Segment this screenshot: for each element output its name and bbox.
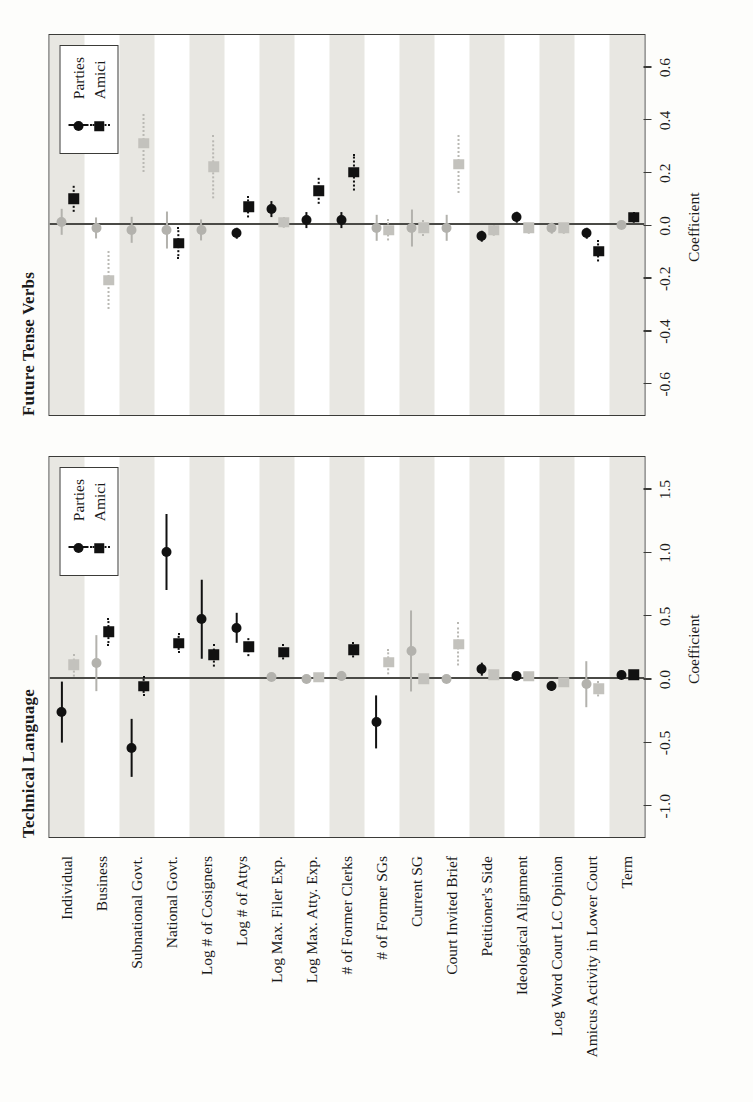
zero-reference-line (49, 677, 644, 679)
point-estimate-marker (266, 672, 276, 682)
category-label: Current SG (408, 856, 424, 927)
point-estimate-marker (511, 671, 521, 681)
point-estimate-marker (593, 684, 604, 695)
x-axis-tick (643, 119, 651, 120)
category-label: Court Invited Brief (443, 856, 459, 975)
legend: PartiesAmici (59, 467, 118, 576)
point-estimate-marker (488, 670, 499, 681)
point-estimate-marker (301, 215, 311, 225)
row-band (539, 35, 574, 415)
row-band (539, 457, 574, 837)
point-estimate-marker (476, 664, 486, 674)
x-axis-tick (643, 225, 651, 226)
alternating-row-bands (49, 457, 644, 837)
category-label: Term (618, 856, 634, 888)
legend-marker (93, 543, 104, 554)
point-estimate-marker (523, 222, 534, 233)
point-estimate-marker (278, 647, 289, 658)
row-band (119, 35, 154, 415)
x-axis-tick-label: -0.2 (655, 267, 673, 292)
point-estimate-marker (418, 222, 429, 233)
category-label: # of Former Clerks (338, 856, 354, 974)
row-band (399, 35, 434, 415)
point-estimate-marker (511, 212, 521, 222)
category-label: Petitioner's Side (478, 856, 494, 957)
point-estimate-marker (348, 167, 359, 178)
legend: PartiesAmici (59, 45, 118, 154)
point-estimate-marker (56, 217, 66, 227)
point-estimate-marker (383, 657, 394, 668)
point-estimate-marker (91, 658, 101, 668)
point-estimate-marker (231, 623, 241, 633)
row-band (329, 35, 364, 415)
x-axis-tick (643, 330, 651, 331)
point-estimate-marker (593, 246, 604, 257)
point-estimate-marker (91, 223, 101, 233)
point-estimate-marker (266, 204, 276, 214)
x-axis-tick (643, 742, 651, 743)
point-estimate-marker (628, 212, 639, 223)
category-label: Individual (58, 856, 74, 920)
legend-entry: Parties (67, 479, 88, 564)
point-estimate-marker (243, 201, 254, 212)
category-label: Amicus Activity in Lower Court (583, 856, 599, 1057)
x-axis-tick (643, 172, 651, 173)
row-band (189, 457, 224, 837)
x-axis-label-future-tense-verbs: Coefficient (684, 193, 702, 262)
point-estimate-marker (278, 217, 289, 228)
point-estimate-marker (453, 159, 464, 170)
point-estimate-marker (441, 674, 451, 684)
legend-marker (93, 121, 104, 132)
point-estimate-marker (173, 238, 184, 249)
x-axis-tick (643, 552, 651, 553)
x-axis-tick (643, 66, 651, 67)
point-estimate-marker (126, 225, 136, 235)
row-band (189, 35, 224, 415)
point-estimate-marker (371, 223, 381, 233)
point-estimate-marker (441, 223, 451, 233)
legend-entry: Amici (88, 479, 109, 564)
category-label: National Govt. (163, 856, 179, 948)
point-estimate-marker (208, 162, 219, 173)
category-label: Log # of Cosigners (198, 856, 214, 975)
point-estimate-marker (313, 185, 324, 196)
panel-title-future-tense-verbs: Future Tense Verbs (18, 272, 38, 416)
legend-label: Amici (90, 60, 108, 99)
legend-label: Parties (69, 57, 87, 99)
point-estimate-marker (138, 681, 149, 692)
point-estimate-marker (336, 215, 346, 225)
point-estimate-marker (161, 225, 171, 235)
point-estimate-marker (406, 646, 416, 656)
row-band (399, 457, 434, 837)
point-estimate-marker (173, 638, 184, 649)
point-estimate-marker (558, 677, 569, 688)
x-axis-tick-label: 0.2 (655, 164, 673, 183)
legend-marker (73, 543, 83, 553)
category-axis-labels: IndividualBusinessSubnational Govt.Natio… (0, 850, 753, 1102)
legend-marker (73, 121, 83, 131)
point-estimate-marker (546, 681, 556, 691)
x-axis-tick-label: 1.5 (655, 480, 673, 499)
category-label: Subnational Govt. (128, 856, 144, 969)
legend-label: Amici (90, 482, 108, 521)
x-axis-tick-label: 0.6 (655, 58, 673, 77)
point-estimate-marker (68, 193, 79, 204)
panel-title-technical-language: Technical Language (18, 689, 38, 838)
figure-canvas: IndividualBusinessSubnational Govt.Natio… (0, 0, 753, 1102)
row-band (259, 457, 294, 837)
square-marker-icon (89, 530, 109, 564)
x-axis-tick-label: -0.5 (655, 731, 673, 756)
point-estimate-marker (581, 228, 591, 238)
circle-marker-icon (68, 530, 88, 564)
category-label: Business (93, 856, 109, 911)
x-axis-tick-label: 1.0 (655, 543, 673, 562)
x-axis-tick (643, 615, 651, 616)
point-estimate-marker (546, 223, 556, 233)
point-estimate-marker (138, 138, 149, 149)
legend-entry: Parties (67, 57, 88, 142)
category-label: Log Max. Atty. Exp. (303, 856, 319, 983)
point-estimate-marker (126, 743, 136, 753)
point-estimate-marker (418, 673, 429, 684)
x-axis-tick (643, 488, 651, 489)
row-band (609, 35, 644, 415)
